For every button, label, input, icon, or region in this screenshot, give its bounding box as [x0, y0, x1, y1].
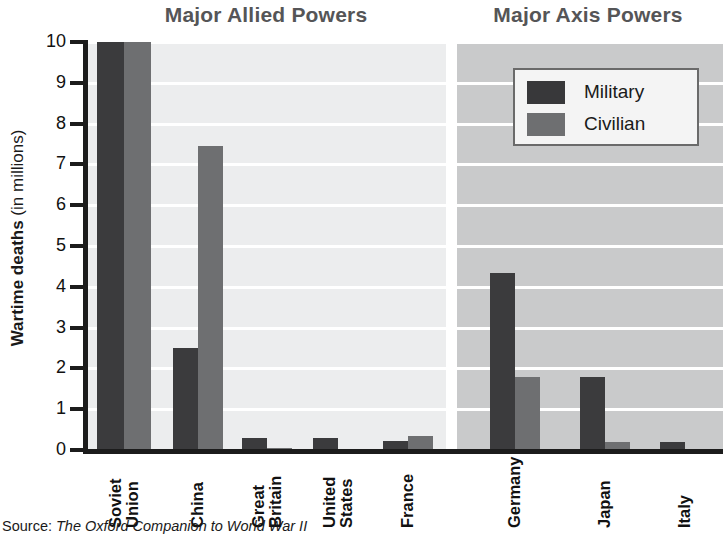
gridline-10 — [457, 42, 723, 44]
y-axis-label-bold: Wartime deaths — [8, 220, 27, 346]
y-tick-label-6: 6 — [36, 196, 66, 212]
chart-title-axis-powers: Major Axis Powers — [452, 3, 724, 27]
category-label-line: United — [320, 477, 338, 528]
category-label-line: Japan — [595, 480, 613, 528]
y-tick-mark-5 — [70, 244, 84, 248]
y-axis-label-units: (in millions) — [8, 130, 27, 221]
x-category-label-united-states: UnitedStates — [321, 477, 355, 528]
chart-title-allied-powers: Major Allied Powers — [86, 3, 446, 27]
y-tick-label-9: 9 — [36, 74, 66, 90]
x-category-label-japan: Japan — [596, 480, 613, 528]
y-tick-mark-8 — [70, 122, 84, 126]
legend-label-military: Military — [584, 79, 644, 105]
wartime-deaths-bar-chart: Major Allied Powers Major Axis Powers Wa… — [0, 0, 727, 540]
legend-swatch-military-icon — [527, 81, 565, 104]
bar-military-germany — [490, 273, 515, 450]
y-tick-label-7: 7 — [36, 155, 66, 171]
y-tick-label-0: 0 — [36, 441, 66, 457]
y-tick-mark-7 — [70, 162, 84, 166]
bar-civilian-china — [198, 146, 223, 450]
source-title: The Oxford Companion to World War II — [56, 518, 307, 534]
gridline-5 — [457, 245, 723, 248]
source-note: Source: The Oxford Companion to World Wa… — [2, 518, 307, 534]
bar-military-japan — [580, 377, 605, 450]
source-prefix: Source: — [2, 518, 56, 534]
category-label-line: France — [398, 474, 416, 528]
y-tick-label-8: 8 — [36, 115, 66, 131]
y-tick-label-2: 2 — [36, 359, 66, 375]
category-label-line: Germany — [505, 456, 523, 528]
category-label-line: States — [338, 477, 355, 528]
y-tick-mark-1 — [70, 407, 84, 411]
bar-civilian-germany — [515, 377, 540, 450]
gridline-6 — [457, 204, 723, 207]
plot-panel-allied — [88, 42, 446, 450]
category-label-line: Italy — [675, 495, 693, 528]
y-tick-mark-3 — [70, 326, 84, 330]
y-tick-mark-9 — [70, 81, 84, 85]
legend-swatch-civilian-icon — [527, 113, 565, 136]
legend-label-civilian: Civilian — [584, 111, 645, 137]
y-tick-mark-2 — [70, 366, 84, 370]
x-category-label-germany: Germany — [506, 456, 523, 528]
y-tick-label-10: 10 — [36, 33, 66, 49]
x-category-label-france: France — [399, 474, 416, 528]
bar-civilian-soviet-union — [124, 42, 151, 450]
y-axis-tick-labels: 012345678910 — [28, 0, 66, 540]
bar-civilian-france — [408, 436, 433, 450]
chart-legend: Military Civilian — [513, 68, 699, 146]
y-tick-label-5: 5 — [36, 237, 66, 253]
y-tick-mark-10 — [70, 40, 84, 44]
y-tick-mark-4 — [70, 285, 84, 289]
x-axis-line — [83, 449, 723, 454]
bar-military-soviet-union — [97, 42, 124, 450]
x-category-label-italy: Italy — [676, 495, 693, 528]
gridline-7 — [457, 163, 723, 166]
y-tick-label-3: 3 — [36, 319, 66, 335]
y-tick-mark-0 — [70, 448, 84, 452]
y-tick-label-4: 4 — [36, 278, 66, 294]
y-tick-mark-6 — [70, 203, 84, 207]
y-axis-line — [83, 40, 88, 452]
bar-military-china — [173, 348, 198, 450]
y-tick-label-1: 1 — [36, 400, 66, 416]
